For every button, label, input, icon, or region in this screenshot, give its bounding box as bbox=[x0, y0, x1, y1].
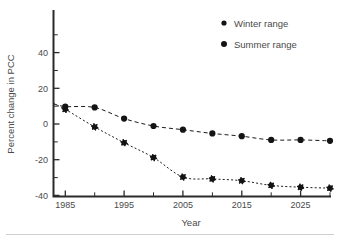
summer-range-data-point bbox=[209, 130, 215, 136]
percent-change-in-pcc-line-chart: 40 20 0 -20 -40 1985 1995 2005 2015 2025… bbox=[0, 0, 340, 237]
y-tick-label-minus-40: -40 bbox=[35, 191, 48, 201]
y-axis-title: Percent change in PCC bbox=[5, 54, 16, 153]
x-tick-label-1985: 1985 bbox=[55, 200, 75, 210]
y-tick-label-minus-20: -20 bbox=[35, 155, 48, 165]
x-axis-title: Year bbox=[181, 217, 200, 228]
summer-range-data-point bbox=[297, 137, 303, 143]
figure-background bbox=[0, 0, 340, 237]
x-tick-label-2015: 2015 bbox=[232, 200, 252, 210]
summer-range-data-point bbox=[327, 138, 333, 144]
legend-label-winter-range: Winter range bbox=[234, 18, 288, 29]
x-tick-label-1995: 1995 bbox=[114, 200, 134, 210]
chart-figure: 40 20 0 -20 -40 1985 1995 2005 2015 2025… bbox=[0, 0, 340, 237]
summer-range-data-point bbox=[92, 104, 98, 110]
summer-range-data-point bbox=[268, 137, 274, 143]
y-tick-label-20: 20 bbox=[38, 84, 48, 94]
winter-range-marker-icon bbox=[221, 20, 226, 25]
summer-range-data-point bbox=[121, 115, 127, 121]
legend-label-summer-range: Summer range bbox=[234, 39, 297, 50]
summer-range-marker-icon bbox=[221, 41, 227, 47]
summer-range-data-point bbox=[150, 123, 156, 129]
y-tick-label-40: 40 bbox=[38, 48, 48, 58]
summer-range-data-point bbox=[180, 127, 186, 133]
x-tick-label-2025: 2025 bbox=[291, 200, 311, 210]
y-tick-label-0: 0 bbox=[43, 119, 48, 129]
x-tick-label-2005: 2005 bbox=[173, 200, 193, 210]
summer-range-data-point bbox=[239, 133, 245, 139]
